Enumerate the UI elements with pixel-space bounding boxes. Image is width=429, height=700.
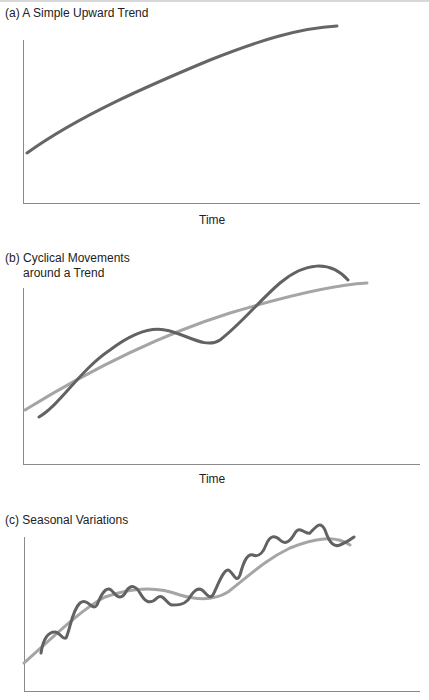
charts-canvas bbox=[0, 0, 429, 700]
panel-b-cyclical-line bbox=[39, 266, 348, 417]
panel-a-axes bbox=[23, 40, 420, 204]
panel-a-trend-line bbox=[27, 26, 337, 153]
panel-b-trend-line bbox=[25, 283, 367, 410]
panel-c-seasonal-line bbox=[41, 525, 354, 653]
panel-c-axes bbox=[24, 537, 420, 692]
